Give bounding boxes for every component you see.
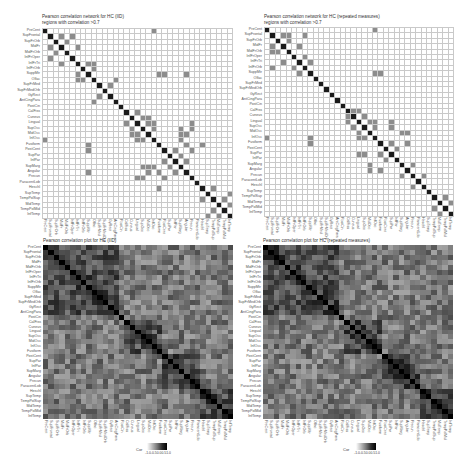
x-axis-labels: PreCentSupFrontalSupFrOrbMidFrMidFrOrbIn… [43, 420, 233, 434]
legend-colorbar [147, 443, 167, 450]
legend-ticks: -1.0-0.50.00.51.0 [145, 451, 169, 455]
legend-tick: 1.0 [166, 451, 171, 455]
correlation-matrix [263, 245, 453, 419]
axis-label: InfTemp [249, 210, 262, 215]
axis-label: InfTemp [248, 414, 261, 419]
chart-subtitle: regions with correlation >0.7 [42, 20, 100, 25]
y-axis-labels: PreCentSupFrontalSupFrOrbMidFrMidFrOrbIn… [0, 28, 40, 218]
x-axis-labels: PreCentSupFrontalSupFrOrbMidFrMidFrOrbIn… [42, 219, 232, 233]
diagonal-cell [448, 414, 453, 419]
axis-label: InfTemp [447, 217, 452, 231]
y-axis-labels: PreCentSupFrontalSupFrOrbMidFrMidFrOrbIn… [222, 27, 262, 216]
y-axis-labels: PreCentSupFrontalSupFrOrbMidFrMidFrOrbIn… [221, 245, 261, 419]
axis-label: InfTemp [226, 219, 231, 233]
y-axis-labels: PreCentSupFrontalSupFrOrbMidFrMidFrOrbIn… [0, 245, 41, 419]
legend-title: Cor [343, 447, 349, 452]
chart-title: Pearson correlation plot for HC (IID) [43, 238, 116, 243]
axis-label: InfTemp [28, 414, 41, 419]
chart-title: Pearson correlation plot for HC (repeate… [263, 238, 370, 243]
chart-subtitle: regions with correlation >0.7 [264, 20, 322, 25]
correlation-matrix [43, 245, 233, 419]
legend-tick: 1.0 [375, 451, 380, 455]
x-axis-labels: PreCentSupFrontalSupFrOrbMidFrMidFrOrbIn… [264, 217, 453, 231]
x-axis-labels: PreCentSupFrontalSupFrOrbMidFrMidFrOrbIn… [263, 420, 453, 434]
axis-label: InfTemp [447, 420, 452, 434]
network-matrix [264, 27, 454, 217]
network-matrix [42, 28, 233, 219]
axis-label: InfTemp [227, 420, 232, 434]
legend-ticks: -1.0-0.50.00.51.0 [354, 451, 378, 455]
legend-title: Cor [136, 447, 142, 452]
legend-colorbar [356, 443, 376, 450]
axis-label: InfTemp [27, 212, 40, 217]
